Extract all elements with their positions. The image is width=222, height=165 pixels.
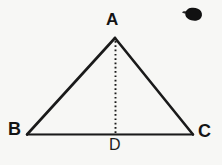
ink-blob-icon [185, 8, 202, 21]
ink-blob-tail-icon [182, 11, 186, 13]
segment-ac [115, 38, 193, 135]
vertex-label-c: C [198, 122, 211, 140]
vertex-label-d: D [109, 137, 121, 153]
vertex-label-a: A [106, 11, 118, 28]
diagram-canvas: A B C D [0, 0, 222, 165]
segment-ab [27, 38, 115, 135]
vertex-label-b: B [8, 120, 21, 138]
